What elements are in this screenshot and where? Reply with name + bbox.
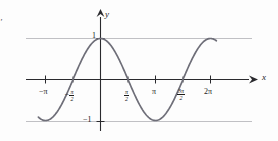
fraction-numerator: π [124, 89, 129, 96]
fraction-pi-over-2: π2 [124, 89, 129, 103]
x-tick-label-three-pi-half: 3π2 [177, 85, 185, 101]
x-tick-label-pi-half: π2 [124, 86, 129, 102]
fraction-3pi-over-2: 3π2 [177, 88, 185, 102]
fraction-numerator: π [69, 89, 74, 96]
x-tick-label-two-pi: 2π [204, 88, 212, 96]
y-axis-arrowhead [97, 9, 105, 17]
x-axis-label: x [262, 73, 266, 82]
x-tick-label-minus-pi-half: −π2 [64, 86, 74, 102]
margin-mark: ′ [0, 18, 2, 27]
x-axis-arrowhead [249, 76, 258, 84]
fraction-numerator: 3π [177, 88, 185, 95]
x-tick-label-minus-pi: −π [39, 88, 48, 96]
y-tick-label-minus-1: −1 [83, 116, 92, 124]
figure-canvas: ′ y x −π −π2 π2 π 3π2 2π 1 −1 [0, 0, 278, 141]
fraction-denominator: 2 [69, 96, 74, 102]
x-tick-label-pi: π [152, 88, 156, 96]
y-tick-label-1: 1 [92, 32, 96, 40]
y-axis-label: y [105, 10, 109, 19]
fraction-denominator: 2 [124, 96, 129, 102]
fraction-denominator: 2 [177, 95, 185, 101]
cosine-graph-svg [0, 0, 278, 141]
fraction-pi-over-2: π2 [69, 89, 74, 103]
